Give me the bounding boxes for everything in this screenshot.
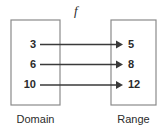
domain-value-3: 10 (13, 79, 36, 90)
range-value-1: 5 (128, 39, 152, 50)
domain-value-1: 3 (16, 39, 36, 50)
range-value-3: 12 (128, 79, 152, 90)
range-caption: Range (106, 113, 161, 125)
domain-value-2: 6 (16, 59, 36, 70)
range-value-2: 8 (128, 59, 152, 70)
function-label: f (74, 4, 78, 17)
function-mapping-diagram: f 3 6 10 5 8 12 Domain Range (0, 0, 163, 132)
domain-caption: Domain (6, 113, 65, 125)
